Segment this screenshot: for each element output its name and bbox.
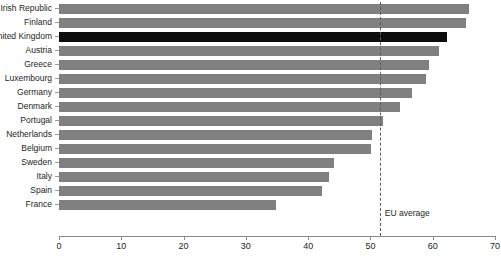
x-tick-label: 0 <box>56 241 61 252</box>
bar-france <box>59 200 276 210</box>
bar-germany <box>59 88 412 98</box>
bar-portugal <box>59 116 383 126</box>
bar-united-kingdom <box>59 32 447 42</box>
bar-row <box>59 44 495 58</box>
bar-row <box>59 58 495 72</box>
bar-row <box>59 100 495 114</box>
x-tick-label: 20 <box>179 241 189 252</box>
bar-row <box>59 86 495 100</box>
x-tick-label: 10 <box>116 241 126 252</box>
category-label-germany: Germany <box>17 87 52 97</box>
category-axis-labels: Irish RepublicFinlandUnited KingdomAustr… <box>0 0 56 236</box>
x-tick-label: 70 <box>490 241 500 252</box>
x-tick-label: 50 <box>365 241 375 252</box>
category-label-greece: Greece <box>24 59 52 69</box>
eu-average-line <box>380 2 381 236</box>
bar-row <box>59 72 495 86</box>
bar-finland <box>59 18 466 28</box>
bar-spain <box>59 186 322 196</box>
bar-row <box>59 128 495 142</box>
category-label-portugal: Portugal <box>20 115 52 125</box>
bar-luxembourg <box>59 74 426 84</box>
bar-chart: Irish RepublicFinlandUnited KingdomAustr… <box>0 0 501 257</box>
bar-sweden <box>59 158 334 168</box>
category-label-spain: Spain <box>30 185 52 195</box>
category-label-austria: Austria <box>26 45 52 55</box>
x-tick <box>121 236 122 240</box>
x-tick <box>59 236 60 240</box>
bar-row <box>59 156 495 170</box>
bar-belgium <box>59 144 371 154</box>
bar-row <box>59 142 495 156</box>
x-tick <box>308 236 309 240</box>
x-tick-label: 60 <box>428 241 438 252</box>
x-tick <box>370 236 371 240</box>
category-label-irish-republic: Irish Republic <box>1 3 53 13</box>
category-label-united-kingdom: United Kingdom <box>0 31 52 41</box>
x-tick-label: 30 <box>241 241 251 252</box>
category-label-finland: Finland <box>24 17 52 27</box>
category-label-luxembourg: Luxembourg <box>5 73 52 83</box>
bar-row <box>59 2 495 16</box>
x-tick-label: 40 <box>303 241 313 252</box>
category-label-denmark: Denmark <box>18 101 52 111</box>
bar-row <box>59 170 495 184</box>
x-tick <box>495 236 496 240</box>
bar-row <box>59 184 495 198</box>
x-tick <box>184 236 185 240</box>
bar-greece <box>59 60 429 70</box>
category-label-italy: Italy <box>36 171 52 181</box>
bar-denmark <box>59 102 400 112</box>
x-tick <box>433 236 434 240</box>
bar-row <box>59 30 495 44</box>
category-label-netherlands: Netherlands <box>6 129 52 139</box>
bar-netherlands <box>59 130 372 140</box>
category-label-france: France <box>26 199 52 209</box>
eu-average-label: EU average <box>385 208 430 218</box>
bar-row <box>59 16 495 30</box>
plot-area <box>59 2 495 236</box>
bar-austria <box>59 46 439 56</box>
x-axis-line <box>59 236 495 237</box>
bar-row <box>59 114 495 128</box>
category-label-sweden: Sweden <box>21 157 52 167</box>
category-label-belgium: Belgium <box>21 143 52 153</box>
x-tick <box>246 236 247 240</box>
bar-italy <box>59 172 329 182</box>
bar-irish-republic <box>59 4 469 14</box>
